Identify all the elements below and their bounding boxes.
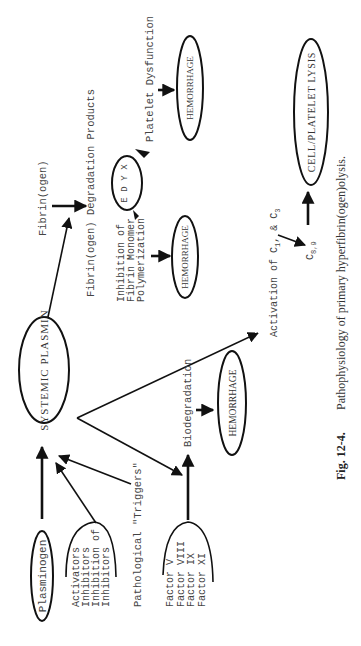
- figure-number: Fig. 12-4.: [334, 432, 348, 480]
- fdp-label: Fibrin(ogen) Degradation Products: [85, 89, 97, 297]
- modulators-arrow: [56, 463, 96, 523]
- systemic-plasmin-label: SYSTEMIC PLASMIN: [38, 309, 50, 430]
- plasmin-to-biodegradation-arrow: [77, 418, 182, 475]
- svg-text:D: D: [120, 186, 130, 191]
- svg-text:Factor V: Factor V: [165, 559, 176, 607]
- complement-arrow: [278, 235, 305, 245]
- svg-text:Polymerization: Polymerization: [136, 218, 147, 302]
- platelet-dysfunction-label: Platelet Dysfunction: [144, 16, 156, 142]
- svg-text:Factor IX: Factor IX: [186, 553, 197, 607]
- diagram-canvas: Plasminogen SYSTEMIC PLASMIN Activators …: [0, 0, 361, 646]
- triggers-label: Pathological "Triggers": [132, 462, 144, 607]
- triggers-arrow: [59, 456, 131, 484]
- xyde-labels: X Y D E: [120, 164, 130, 203]
- factors-list: Factor V Factor VIII Factor IX Factor XI: [165, 541, 208, 607]
- figure-caption: Pathophysiology of primary hyperfibrin(o…: [334, 156, 348, 410]
- cell-platelet-lysis-label: CELL/PLATELET LYSIS: [306, 52, 317, 172]
- svg-text:E: E: [120, 197, 130, 202]
- biodegradation-label: Biodegradation: [182, 359, 194, 447]
- activation-label: Activation of C1, & C3: [269, 209, 282, 337]
- inhibition-label: Inhibition of Fibrin Monomer Polymerizat…: [116, 218, 147, 302]
- c89-label: C8,9: [305, 241, 318, 260]
- svg-text:Factor XI: Factor XI: [197, 553, 208, 607]
- fibrinogen-label: Fibrin(ogen): [37, 160, 49, 236]
- svg-text:Inhibitors: Inhibitors: [101, 547, 112, 607]
- modulators-list: Activators Inhibitors Inhibition of Inhi…: [71, 529, 112, 607]
- hemorrhage-label-2: HEMORRHAGE: [180, 225, 190, 289]
- plasminogen-label: Plasminogen: [37, 540, 49, 613]
- plasmin-to-fibrinogen-arrow: [48, 218, 69, 317]
- svg-text:X: X: [120, 164, 130, 170]
- hemorrhage-label-3: HEMORRHAGE: [185, 56, 195, 120]
- xyde-to-platelet-arrowhead: [135, 149, 150, 158]
- hemorrhage-label-1: HEMORRHAGE: [228, 369, 238, 436]
- svg-text:Y: Y: [120, 175, 130, 181]
